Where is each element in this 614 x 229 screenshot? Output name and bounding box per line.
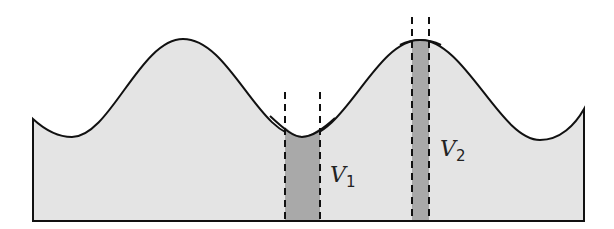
column-v2 [412,40,429,220]
diagram-canvas: V1 V2 [0,0,614,229]
label-v2-sub: 2 [456,147,466,165]
column-v1 [285,127,320,220]
label-v1-sub: 1 [346,173,356,191]
